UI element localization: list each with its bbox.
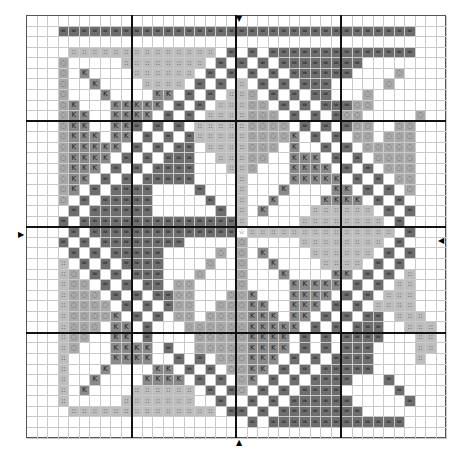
stitch-cell-medium-gray-k: K	[300, 164, 311, 175]
stitch-cell-medium-gray-k: K	[101, 153, 112, 164]
stitch-cell-dark-gray: =	[395, 259, 406, 270]
stitch-cell-medium-gray-k: K	[111, 333, 122, 344]
stitch-cell-dark-gray: =	[405, 48, 416, 59]
stitch-cell-light-gray-dots: ::	[101, 407, 112, 418]
stitch-cell-dark-gray: =	[59, 27, 70, 38]
stitch-cell-blank	[248, 428, 259, 439]
stitch-cell-blank	[353, 291, 364, 302]
stitch-cell-gray-circle: ◌	[405, 164, 416, 175]
stitch-cell-blank	[426, 164, 437, 175]
stitch-cell-dark-gray: =	[195, 227, 206, 238]
stitch-cell-dark-gray: =	[101, 238, 112, 249]
stitch-cell-blank	[153, 16, 164, 27]
stitch-cell-light-gray-dots: ::	[216, 132, 227, 143]
stitch-cell-gray-circle: ◌	[59, 185, 70, 196]
stitch-cell-dark-gray: =	[185, 365, 196, 376]
center-arrow-right-icon: ◀	[438, 237, 444, 245]
stitch-cell-blank	[27, 248, 38, 259]
stitch-cell-dark-gray: =	[321, 365, 332, 376]
stitch-cell-blank	[342, 386, 353, 397]
stitch-cell-blank	[426, 417, 437, 428]
stitch-cell-dark-gray: =	[216, 396, 227, 407]
stitch-cell-dark-gray: =	[311, 58, 322, 69]
stitch-cell-blank	[269, 58, 280, 69]
stitch-cell-dark-gray: =	[153, 238, 164, 249]
stitch-cell-dark-gray: =	[216, 27, 227, 38]
stitch-cell-dark-gray: =	[384, 375, 395, 386]
stitch-cell-blank	[437, 79, 448, 90]
stitch-cell-blank	[416, 185, 427, 196]
stitch-cell-blank	[279, 354, 290, 365]
stitch-cell-blank	[363, 16, 374, 27]
stitch-cell-blank	[426, 248, 437, 259]
stitch-cell-light-gray-dots: ::	[59, 375, 70, 386]
stitch-cell-blank	[27, 407, 38, 418]
stitch-cell-medium-gray-k: K	[300, 301, 311, 312]
stitch-cell-blank	[258, 16, 269, 27]
stitch-cell-blank	[321, 153, 332, 164]
stitch-cell-blank	[27, 238, 38, 249]
stitch-cell-blank	[311, 343, 322, 354]
stitch-cell-blank	[27, 386, 38, 397]
stitch-cell-blank	[258, 291, 269, 302]
stitch-cell-blank	[27, 174, 38, 185]
stitch-cell-blank	[206, 301, 217, 312]
stitch-cell-blank	[290, 122, 301, 133]
stitch-cell-gray-circle: ◌	[237, 333, 248, 344]
stitch-cell-blank	[290, 101, 301, 112]
stitch-cell-blank	[353, 143, 364, 154]
stitch-cell-blank	[111, 417, 122, 428]
stitch-cell-blank	[27, 122, 38, 133]
stitch-cell-blank	[258, 375, 269, 386]
stitch-cell-blank	[353, 270, 364, 281]
stitch-cell-blank	[153, 333, 164, 344]
stitch-cell-medium-gray-k: K	[111, 343, 122, 354]
stitch-cell-light-gray-dots: ::	[59, 365, 70, 376]
stitch-cell-medium-gray-k: K	[290, 153, 301, 164]
stitch-cell-light-gray-dots: ::	[132, 386, 143, 397]
stitch-cell-blank	[363, 79, 374, 90]
stitch-cell-blank	[374, 101, 385, 112]
stitch-cell-blank	[185, 196, 196, 207]
stitch-cell-blank	[80, 101, 91, 112]
stitch-cell-light-gray-dots: ::	[206, 48, 217, 59]
stitch-cell-blank	[27, 143, 38, 154]
stitch-cell-blank	[101, 375, 112, 386]
stitch-cell-dark-gray: =	[132, 227, 143, 238]
stitch-cell-gray-circle: ◌	[248, 164, 259, 175]
stitch-cell-dark-gray: =	[342, 164, 353, 175]
stitch-cell-blank	[248, 248, 259, 259]
stitch-cell-blank	[300, 16, 311, 27]
stitch-cell-dark-gray: =	[374, 48, 385, 59]
stitch-cell-blank	[437, 333, 448, 344]
stitch-cell-blank	[132, 417, 143, 428]
stitch-cell-medium-gray-k: K	[311, 153, 322, 164]
stitch-cell-light-gray-dots: ::	[153, 386, 164, 397]
stitch-cell-dark-gray: =	[101, 259, 112, 270]
stitch-cell-blank	[27, 153, 38, 164]
stitch-cell-medium-gray-k: K	[111, 101, 122, 112]
stitch-cell-light-gray-dots: ::	[59, 291, 70, 302]
stitch-cell-gray-circle: ◌	[185, 291, 196, 302]
stitch-cell-blank	[80, 428, 91, 439]
stitch-cell-gray-circle: ◌	[258, 122, 269, 133]
stitch-cell-blank	[111, 69, 122, 80]
stitch-cell-dark-gray: =	[321, 375, 332, 386]
stitch-cell-blank	[437, 407, 448, 418]
stitch-cell-blank	[248, 407, 259, 418]
stitch-cell-blank	[437, 396, 448, 407]
stitch-cell-blank	[405, 386, 416, 397]
stitch-cell-blank	[363, 280, 374, 291]
stitch-cell-blank	[279, 143, 290, 154]
stitch-cell-dark-gray: =	[353, 333, 364, 344]
stitch-cell-blank	[279, 164, 290, 175]
stitch-cell-blank	[269, 291, 280, 302]
stitch-cell-blank	[374, 248, 385, 259]
stitch-cell-blank	[426, 27, 437, 38]
cross-stitch-chart: ==================================::::::…	[26, 15, 446, 438]
stitch-cell-light-gray-dots: ::	[353, 206, 364, 217]
stitch-cell-blank	[216, 365, 227, 376]
stitch-cell-blank	[416, 396, 427, 407]
stitch-cell-light-gray-dots: ::	[353, 259, 364, 270]
stitch-cell-blank	[279, 153, 290, 164]
